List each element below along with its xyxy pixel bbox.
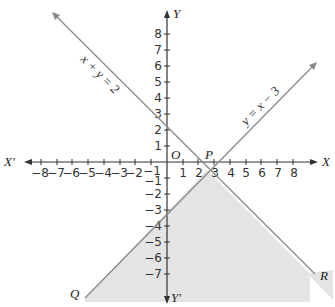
equation-label-1: x + y = 2	[77, 51, 123, 97]
svg-text:6: 6	[154, 59, 162, 73]
svg-text:−4: −4	[144, 219, 162, 233]
svg-text:6: 6	[258, 166, 266, 180]
svg-text:1: 1	[179, 166, 187, 180]
x-neg-axis-label: X'	[3, 154, 15, 169]
svg-text:8: 8	[154, 27, 162, 41]
svg-text:−2: −2	[144, 187, 162, 201]
svg-text:7: 7	[274, 166, 282, 180]
equation-label-2: y = x − 3	[236, 83, 283, 130]
svg-text:2: 2	[195, 166, 203, 180]
x-axis-label: X	[321, 154, 331, 169]
svg-text:1: 1	[154, 139, 162, 153]
svg-text:3: 3	[154, 107, 162, 121]
svg-text:−5: −5	[144, 235, 162, 249]
svg-text:4: 4	[227, 166, 235, 180]
graph-canvas: −8−7−6 −5−4−3 −2−1 123 456 78 876 543 21…	[0, 0, 335, 307]
y-tick-labels: 876 543 21 −1−2−3 −4−5−6 −7	[144, 27, 162, 281]
svg-text:−7: −7	[144, 267, 162, 281]
svg-text:7: 7	[154, 43, 162, 57]
svg-text:−1: −1	[144, 174, 162, 188]
svg-text:−6: −6	[144, 251, 162, 265]
point-r-label: R	[319, 268, 328, 283]
point-q-label: Q	[70, 286, 80, 301]
svg-text:5: 5	[242, 166, 250, 180]
x-arrow-left-icon	[24, 159, 32, 165]
x-arrow-right-icon	[310, 159, 318, 165]
svg-text:8: 8	[290, 166, 298, 180]
svg-text:−2: −2	[125, 166, 143, 180]
svg-text:5: 5	[154, 75, 162, 89]
origin-label: O	[171, 147, 181, 162]
svg-text:4: 4	[154, 91, 162, 105]
y-axis-label: Y	[173, 6, 182, 21]
y-neg-axis-label: Y'	[171, 290, 181, 305]
point-p-label: P	[204, 147, 213, 162]
svg-text:−3: −3	[144, 203, 162, 217]
y-arrow-up-icon	[164, 10, 170, 18]
svg-text:2: 2	[154, 123, 162, 137]
